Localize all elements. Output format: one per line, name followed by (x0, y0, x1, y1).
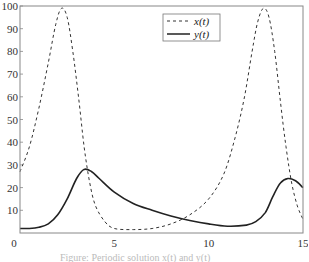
legend-label-x: x(t) (193, 15, 210, 28)
y-tick-label: 60 (7, 91, 19, 103)
series-lines (20, 8, 303, 230)
y-tick-label: 80 (7, 45, 19, 57)
x-tick-label: 15 (298, 237, 309, 249)
y-tick-label: 10 (7, 204, 19, 216)
y-tick-label: 40 (7, 136, 19, 148)
series-x-line (20, 8, 303, 230)
legend-box (163, 14, 220, 41)
x-tick-label: 10 (203, 237, 215, 249)
x-axis-ticks: 051015 (11, 237, 308, 249)
line-chart: 102030405060708090100 051015 x(t) y(t) (0, 0, 308, 259)
plot-frame (20, 6, 303, 233)
x-tick-label: 0 (11, 237, 17, 249)
y-tick-label: 20 (7, 182, 19, 194)
y-tick-label: 100 (2, 0, 19, 12)
figure-caption: Figure: Periodic solution x(t) and y(t) (60, 252, 260, 262)
y-tick-label: 30 (7, 159, 19, 171)
x-tick-label: 5 (112, 237, 118, 249)
y-tick-label: 50 (7, 114, 19, 126)
legend-label-y: y(t) (193, 28, 210, 41)
legend: x(t) y(t) (163, 14, 220, 41)
y-tick-label: 90 (7, 23, 19, 35)
series-y-line (20, 169, 303, 228)
y-tick-label: 70 (7, 68, 19, 80)
